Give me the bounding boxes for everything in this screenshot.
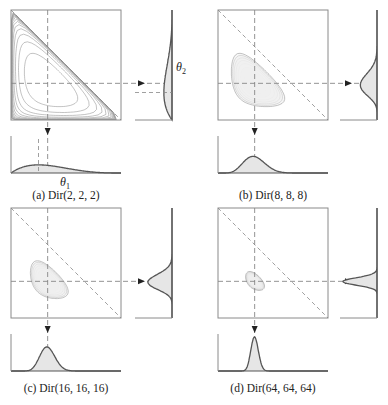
contour-line [30, 261, 68, 299]
marginal-theta2-curve [148, 208, 172, 318]
marginal-theta2-curve [343, 208, 377, 318]
arrow-down-icon [45, 326, 51, 333]
marginal-theta1-fill [218, 337, 328, 371]
contour-line [16, 34, 97, 115]
simplex-boundary-line [218, 208, 328, 318]
contour-line [231, 53, 284, 106]
marginal-theta1-fill [11, 347, 121, 371]
arrow-right-icon [138, 278, 145, 284]
contour-line [12, 19, 112, 119]
arrow-down-icon [252, 326, 258, 333]
dirichlet-figure [0, 0, 388, 405]
caption-d: (d) Dir(64, 64, 64) [230, 382, 315, 394]
contour-line [24, 53, 77, 106]
arrow-right-icon [345, 80, 352, 86]
theta1-label: θ1 [60, 175, 70, 191]
marginal-theta1-curve [11, 347, 121, 371]
marginal-theta1-curve [218, 337, 328, 371]
marginal-theta2-fill [148, 208, 172, 318]
arrow-down-icon [45, 128, 51, 135]
caption-c: (c) Dir(16, 16, 16) [24, 382, 109, 394]
theta2-label: θ2 [176, 60, 186, 76]
simplex-boundary-line [11, 208, 121, 318]
arrow-right-icon [138, 80, 145, 86]
marginal-theta2-fill [343, 208, 377, 318]
caption-b: (b) Dir(8, 8, 8) [239, 189, 307, 201]
arrow-down-icon [252, 128, 258, 135]
contour-line [12, 13, 116, 119]
contour-line [12, 22, 109, 119]
